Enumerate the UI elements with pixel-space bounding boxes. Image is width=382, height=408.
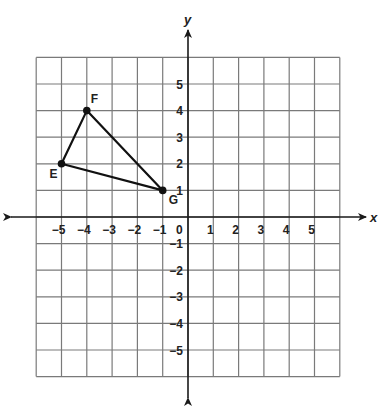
x-tick-label: −2 bbox=[128, 223, 142, 237]
x-tick-label: 4 bbox=[283, 223, 290, 237]
y-tick-label: −5 bbox=[169, 344, 183, 358]
vertex-label-g: G bbox=[169, 193, 178, 207]
x-tick-label: 1 bbox=[207, 223, 214, 237]
origin-label: 0 bbox=[176, 223, 183, 237]
y-tick-label: −2 bbox=[169, 264, 183, 278]
y-tick-label: 5 bbox=[176, 78, 183, 92]
x-tick-label: −4 bbox=[77, 223, 91, 237]
x-tick-label: 5 bbox=[308, 223, 315, 237]
y-tick-label: −1 bbox=[169, 237, 183, 251]
x-axis-label: x bbox=[369, 210, 378, 225]
y-axis-label: y bbox=[183, 12, 192, 27]
vertex-label-e: E bbox=[50, 167, 58, 181]
vertex-label-f: F bbox=[91, 92, 98, 106]
x-tick-label: 3 bbox=[258, 223, 265, 237]
vertex-g bbox=[159, 187, 167, 195]
y-tick-label: −4 bbox=[169, 317, 183, 331]
y-tick-label: 4 bbox=[176, 104, 183, 118]
vertex-e bbox=[58, 160, 66, 168]
x-tick-label: −1 bbox=[153, 223, 167, 237]
y-tick-label: −3 bbox=[169, 290, 183, 304]
x-tick-label: 2 bbox=[232, 223, 239, 237]
y-tick-label: 2 bbox=[176, 157, 183, 171]
x-tick-label: −3 bbox=[102, 223, 116, 237]
coordinate-plane: −5−4−3−2−112345 54321−1−2−3−4−5 0 x y EF… bbox=[0, 0, 382, 408]
y-tick-label: 3 bbox=[176, 131, 183, 145]
x-tick-label: −5 bbox=[52, 223, 66, 237]
vertex-f bbox=[83, 107, 91, 115]
x-tick-labels: −5−4−3−2−112345 bbox=[52, 223, 316, 237]
